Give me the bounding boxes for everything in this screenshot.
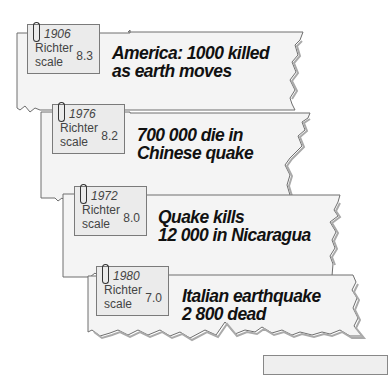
headline: Italian earthquake 2 800 dead <box>182 287 321 323</box>
magnitude: 7.0 <box>145 291 162 305</box>
year: 1980 <box>113 269 140 283</box>
scale-label: Richter <box>104 283 142 297</box>
paperclip-icon <box>102 268 109 284</box>
scale-label: scale <box>104 297 132 311</box>
partial-box <box>263 355 388 375</box>
label-card: 1980 Richter scale 7.0 <box>96 266 169 316</box>
